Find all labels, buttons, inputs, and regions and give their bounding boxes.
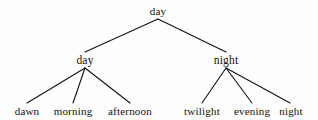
tree-edge-night-to-night-leaf (226, 68, 290, 103)
tree-edge-day-to-afternoon (85, 68, 130, 103)
tree-leaf-night: night (279, 106, 303, 117)
tree-edge-root-to-night (158, 19, 226, 52)
tree-leaf-morning: morning (54, 106, 93, 117)
tree-node-day: day (76, 55, 93, 66)
tree-leaf-twilight: twilight (184, 106, 220, 117)
tree-diagram: day day night dawn morning afternoon twi… (0, 0, 318, 120)
tree-node-root-day: day (150, 6, 166, 17)
tree-edge-root-to-day (85, 19, 158, 52)
tree-leaf-evening: evening (234, 106, 270, 117)
tree-leaf-afternoon: afternoon (108, 106, 152, 117)
tree-edge-day-to-morning (73, 68, 85, 103)
tree-leaf-dawn: dawn (15, 106, 40, 117)
tree-edge-layer (0, 0, 318, 120)
tree-edge-night-to-evening (226, 68, 252, 103)
tree-node-night: night (214, 55, 239, 66)
tree-edge-night-to-twilight (202, 68, 226, 103)
tree-edge-day-to-dawn (27, 68, 85, 103)
